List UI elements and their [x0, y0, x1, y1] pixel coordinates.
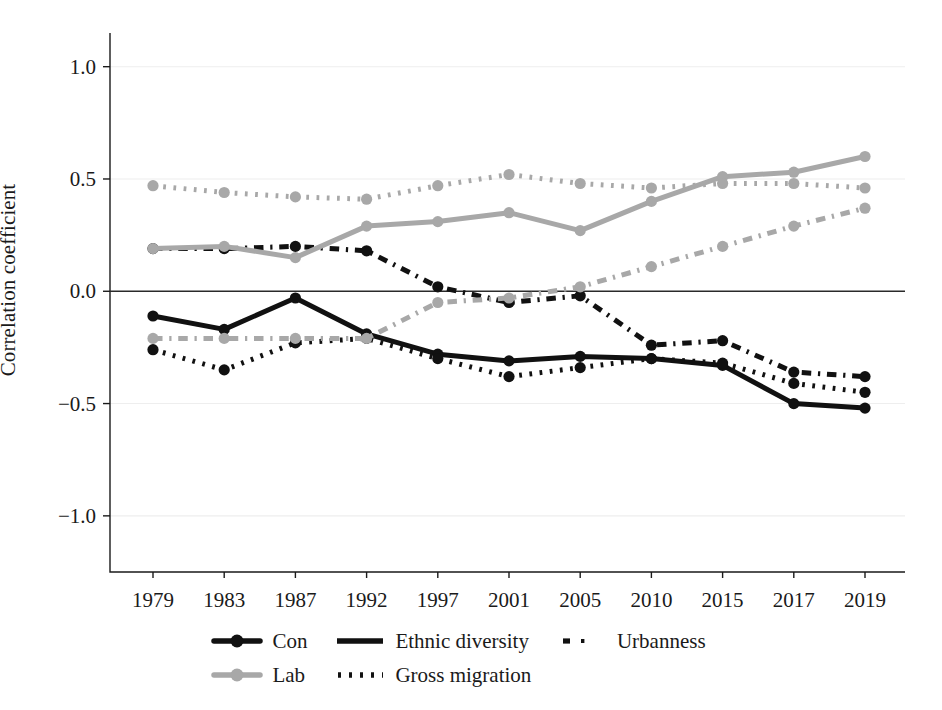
series-point — [147, 333, 158, 344]
legend-row-1: ConEthnic diversityUrbanness — [0, 626, 942, 656]
legend-item-label: Ethnic diversity — [395, 629, 529, 654]
series-point — [575, 281, 586, 292]
legend-item-urbanness[interactable]: Urbanness — [555, 626, 706, 656]
series-point — [147, 344, 158, 355]
series-point — [219, 364, 230, 375]
series-point — [717, 178, 728, 189]
series-point — [859, 203, 870, 214]
series-point — [432, 180, 443, 191]
series-point — [575, 362, 586, 373]
series-point — [788, 378, 799, 389]
series-point — [575, 178, 586, 189]
series-point — [432, 281, 443, 292]
series-point — [361, 221, 372, 232]
series-point — [859, 387, 870, 398]
series-point — [361, 194, 372, 205]
series-point — [290, 241, 301, 252]
series-line — [153, 208, 865, 338]
legend-dash — [563, 638, 570, 643]
series-point — [646, 196, 657, 207]
legend-key-solid-icon — [333, 630, 387, 652]
legend-item-gross-migration[interactable]: Gross migration — [333, 660, 531, 690]
series-point — [290, 292, 301, 303]
legend-item-ethnic-diversity[interactable]: Ethnic diversity — [333, 626, 529, 656]
series-point — [788, 221, 799, 232]
series-point — [788, 398, 799, 409]
series-point — [219, 187, 230, 198]
series-point — [503, 169, 514, 180]
series-point — [646, 340, 657, 351]
series-point — [859, 403, 870, 414]
series-point — [290, 252, 301, 263]
series-point — [503, 355, 514, 366]
series-point — [432, 353, 443, 364]
series-point — [290, 191, 301, 202]
series-point — [646, 353, 657, 364]
series-point — [147, 243, 158, 254]
legend-item-lab[interactable]: Lab — [210, 660, 305, 690]
legend-item-label: Urbanness — [617, 629, 706, 654]
legend-marker-dot — [231, 669, 244, 682]
series-point — [361, 333, 372, 344]
legend-item-con[interactable]: Con — [210, 626, 307, 656]
series-point — [290, 333, 301, 344]
legend-marker-dot — [231, 635, 244, 648]
series-point — [432, 297, 443, 308]
series-point — [859, 371, 870, 382]
series-point — [432, 216, 443, 227]
series-point — [361, 245, 372, 256]
series-point — [503, 371, 514, 382]
legend-key-marker-line-icon — [210, 630, 264, 652]
series-point — [788, 178, 799, 189]
chart-legend: ConEthnic diversityUrbanness LabGross mi… — [0, 626, 942, 700]
legend-key-dotted-icon — [333, 664, 387, 686]
series-point — [219, 241, 230, 252]
series-point — [646, 182, 657, 193]
series-point — [717, 358, 728, 369]
series-point — [859, 151, 870, 162]
legend-item-label: Lab — [272, 663, 305, 688]
legend-dot — [581, 639, 584, 643]
legend-row-2: LabGross migration — [0, 660, 942, 690]
series-point — [646, 261, 657, 272]
series-point — [859, 182, 870, 193]
legend-key-marker-line-icon — [210, 664, 264, 686]
series-point — [147, 310, 158, 321]
legend-key-dashdot-icon — [555, 630, 609, 652]
plot-area — [0, 0, 942, 710]
series-line — [153, 298, 865, 408]
series-point — [788, 167, 799, 178]
series-point — [503, 207, 514, 218]
legend-item-label: Con — [272, 629, 307, 654]
legend-item-label: Gross migration — [395, 663, 531, 688]
series-point — [503, 292, 514, 303]
series-point — [717, 335, 728, 346]
chart-figure: Correlation coefficient 1.00.50.0−0.5−1.… — [0, 0, 942, 710]
series-point — [575, 351, 586, 362]
series-point — [575, 225, 586, 236]
series-point — [788, 367, 799, 378]
series-point — [219, 333, 230, 344]
series-point — [147, 180, 158, 191]
series-point — [717, 241, 728, 252]
